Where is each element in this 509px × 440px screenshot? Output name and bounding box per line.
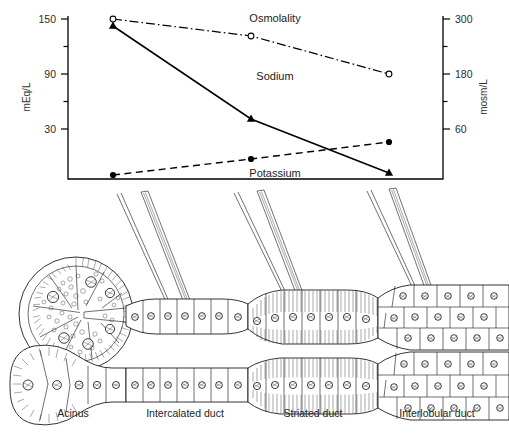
- potassium-point-3: [386, 139, 392, 145]
- histology-svg: Acinus Intercalated duct Striated duct I…: [0, 186, 509, 440]
- axis-frame: [68, 16, 443, 179]
- salivary-secretion-chart: 150 90 30 300 180 60 mEq/L mosm/L: [0, 0, 509, 196]
- stage-label-intercalated-duct: Intercalated duct: [146, 407, 224, 419]
- striated-duct-lower: [248, 358, 378, 414]
- intercalated-duct-lower: [126, 368, 248, 402]
- osmolality-point-1: [110, 16, 116, 22]
- sodium-line: [113, 26, 389, 173]
- series-sodium: [109, 21, 393, 175]
- right-axis-ticks: [443, 19, 450, 129]
- intercalated-duct-upper: [126, 299, 248, 334]
- left-axis-ticks: [61, 19, 68, 129]
- chart-svg: 150 90 30 300 180 60 mEq/L mosm/L: [0, 0, 509, 196]
- right-tick-300: 300: [455, 13, 473, 25]
- stage-label-striated-duct: Striated duct: [284, 407, 343, 419]
- striated-duct-upper: [248, 290, 378, 344]
- left-tick-150: 150: [38, 13, 56, 25]
- series-label-sodium: Sodium: [256, 70, 293, 82]
- osmolality-point-2: [248, 33, 254, 39]
- right-tick-60: 60: [455, 123, 467, 135]
- salivary-gland-histology-diagram: Acinus Intercalated duct Striated duct I…: [0, 186, 509, 440]
- stage-label-interlobular-duct: Interlobular duct: [399, 407, 474, 419]
- left-tick-90: 90: [44, 68, 56, 80]
- left-axis-title: mEq/L: [21, 82, 32, 111]
- osmolality-line: [113, 19, 389, 74]
- stage-label-acinus: Acinus: [57, 407, 89, 419]
- right-tick-180: 180: [455, 68, 473, 80]
- figure-root: 150 90 30 300 180 60 mEq/L mosm/L: [0, 0, 509, 440]
- potassium-point-2: [248, 156, 254, 162]
- potassium-point-1: [110, 172, 116, 178]
- osmolality-point-3: [386, 71, 392, 77]
- series-label-potassium: Potassium: [249, 167, 300, 179]
- sodium-point-2: [247, 114, 255, 121]
- left-tick-30: 30: [44, 123, 56, 135]
- series-label-osmolality: Osmolality: [249, 12, 301, 24]
- interlobular-duct-upper: [378, 285, 509, 350]
- right-axis-title: mosm/L: [478, 79, 489, 115]
- series-osmolality: [110, 16, 392, 77]
- sodium-point-1: [109, 21, 117, 28]
